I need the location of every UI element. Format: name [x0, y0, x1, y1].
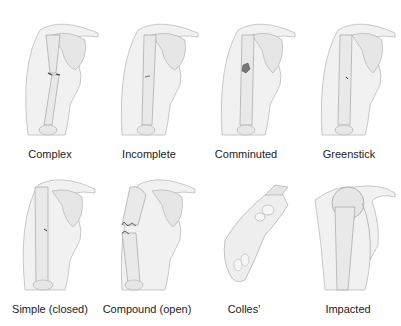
panel-incomplete	[110, 5, 210, 140]
label-compound-open: Compound (open)	[103, 303, 192, 315]
label-colles: Colles'	[228, 303, 261, 315]
colles-fracture-wrist-illustration	[210, 165, 300, 295]
incomplete-fracture-illustration	[110, 5, 200, 140]
label-complex: Complex	[28, 148, 71, 160]
panel-greenstick	[310, 5, 401, 140]
label-impacted: Impacted	[325, 303, 370, 315]
label-comminuted: Comminuted	[215, 148, 277, 160]
simple-fracture-illustration	[10, 165, 100, 295]
panel-impacted	[310, 165, 401, 295]
panel-simple-closed	[10, 165, 110, 295]
panel-comminuted	[210, 5, 310, 140]
label-simple-closed: Simple (closed)	[12, 303, 88, 315]
comminuted-fracture-illustration	[210, 5, 300, 140]
greenstick-fracture-illustration	[310, 5, 400, 140]
impacted-fracture-illustration	[310, 165, 400, 295]
fracture-types-figure: Complex Incomplete Comminuted Greenstick	[0, 0, 401, 326]
panel-compound-open	[110, 165, 210, 295]
label-greenstick: Greenstick	[323, 148, 376, 160]
panel-colles	[210, 165, 310, 295]
label-incomplete: Incomplete	[122, 148, 176, 160]
complex-fracture-illustration	[10, 5, 100, 140]
compound-fracture-illustration	[110, 165, 200, 295]
panel-complex	[10, 5, 110, 140]
